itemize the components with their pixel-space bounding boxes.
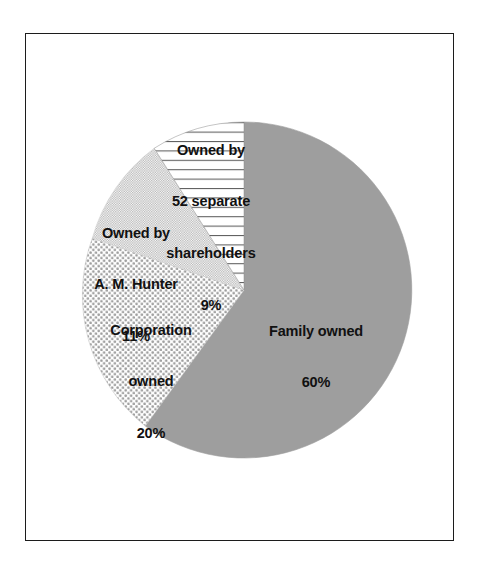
pie-chart-svg bbox=[0, 0, 480, 566]
ownership-pie-chart: Owned by 52 separate shareholders 9% Own… bbox=[0, 0, 480, 566]
